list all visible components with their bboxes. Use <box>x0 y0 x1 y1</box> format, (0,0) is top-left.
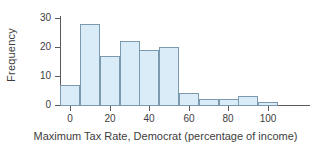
histogram-bar <box>120 41 140 106</box>
x-axis-tick-label: 0 <box>55 113 85 124</box>
histogram-bar <box>139 50 159 106</box>
y-axis-tick-label: 30 <box>21 13 51 23</box>
histogram-bar <box>80 24 100 106</box>
histogram-bar <box>258 102 278 106</box>
x-axis-tick-label: 100 <box>253 113 283 124</box>
histogram-bar <box>219 99 239 106</box>
x-axis-tick <box>268 106 269 111</box>
x-axis-tick <box>228 106 229 111</box>
x-axis-tick-label: 80 <box>213 113 243 124</box>
x-axis-tick-label: 20 <box>95 113 125 124</box>
histogram-figure: Frequency 0102030020406080100 Maximum Ta… <box>0 0 331 149</box>
histogram-bar <box>159 47 179 106</box>
plot-area: 0102030020406080100 <box>0 0 331 149</box>
x-axis-tick <box>110 106 111 111</box>
histogram-bar <box>100 56 120 106</box>
histogram-bar <box>60 85 80 106</box>
histogram-bar <box>199 99 219 106</box>
x-axis-tick <box>189 106 190 111</box>
x-axis-tick <box>149 106 150 111</box>
y-axis-tick-label: 10 <box>21 71 51 81</box>
y-axis-tick <box>55 18 60 19</box>
y-axis-tick <box>55 47 60 48</box>
y-axis-tick <box>55 76 60 77</box>
y-axis-tick-label: 20 <box>21 42 51 52</box>
y-axis-tick-label: 0 <box>21 100 51 110</box>
histogram-bar <box>238 96 258 106</box>
histogram-bar <box>179 93 199 106</box>
x-axis-tick-label: 40 <box>134 113 164 124</box>
x-axis-tick <box>70 106 71 111</box>
x-axis-tick-label: 60 <box>174 113 204 124</box>
x-axis-title: Maximum Tax Rate, Democrat (percentage o… <box>0 130 331 143</box>
